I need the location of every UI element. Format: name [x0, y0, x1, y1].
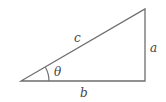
- triangle: [21, 9, 145, 81]
- label-opposite: a: [150, 41, 157, 55]
- label-angle: θ: [54, 65, 62, 79]
- label-hypotenuse: c: [74, 31, 81, 45]
- angle-arc: [45, 67, 49, 81]
- right-triangle-diagram: c a b θ: [0, 0, 166, 102]
- label-adjacent: b: [80, 86, 88, 100]
